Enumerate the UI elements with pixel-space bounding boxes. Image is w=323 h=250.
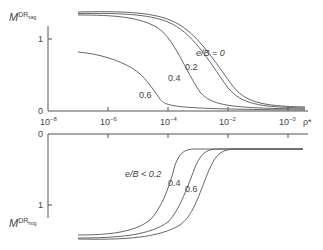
x-tick-label: 10−8	[40, 116, 58, 127]
curve-eB-0.6	[78, 149, 303, 239]
x-tick-label: 10−4	[160, 116, 178, 127]
bottom-panel: 0 1 MDRhog e/B < 0.2 0.4 0.6	[9, 129, 308, 239]
label-0.4: 0.4	[168, 73, 181, 83]
x-tick-label: 10−6	[100, 116, 118, 127]
x-tick-label: 10−0	[279, 116, 297, 127]
label-0.2: 0.2	[185, 62, 198, 72]
label-eB-0: e/B = 0	[196, 48, 225, 58]
bottom-y-tick-label-1: 1	[38, 200, 43, 210]
bottom-y-tick-label-0: 0	[38, 129, 43, 139]
top-y-tick-label-0: 0	[38, 106, 43, 116]
bottom-ylabel: MDRhog	[9, 217, 37, 229]
x-tick-labels: 10−8 10−6 10−4 10−2 10−0 ρ*	[40, 116, 312, 127]
curve-eB-0.6	[78, 52, 305, 110]
label-0.4: 0.4	[168, 178, 181, 188]
x-tick-label: 10−2	[219, 116, 237, 127]
label-0.6: 0.6	[185, 184, 198, 194]
curve-eB-0.2	[78, 13, 305, 108]
chart-canvas: MDRsag 1 0 10−8 10−6 10−4 10−2 10−0 ρ* e…	[0, 0, 323, 250]
x-axis-label: ρ*	[303, 117, 312, 127]
top-ylabel: MDRsag	[9, 11, 37, 23]
label-0.6: 0.6	[139, 90, 152, 100]
label-eB-lt-0.2: e/B < 0.2	[125, 169, 161, 179]
top-y-tick-label-1: 1	[38, 34, 43, 44]
top-panel: MDRsag 1 0 10−8 10−6 10−4 10−2 10−0 ρ* e…	[9, 11, 312, 127]
